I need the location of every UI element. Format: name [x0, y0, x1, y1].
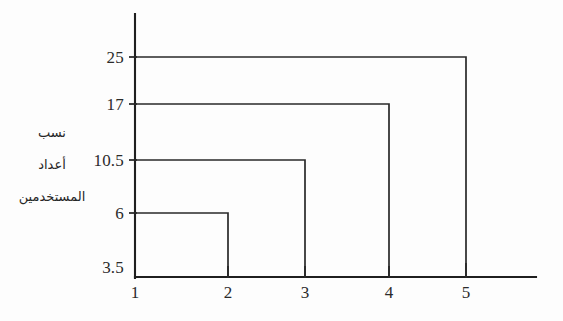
x-tick-label-5: 5	[451, 284, 481, 301]
y-tick-label-3-5: 3.5	[68, 259, 124, 276]
x-tick-label-1: 1	[120, 284, 150, 301]
y-tick-label-17: 17	[74, 96, 124, 113]
step-rect-6	[135, 213, 228, 277]
step-rect-25	[135, 57, 466, 277]
step-rect-10-5	[135, 160, 305, 277]
x-axis-ticks	[135, 263, 466, 277]
y-axis-title-line-1: نسب	[14, 126, 90, 139]
x-tick-label-2: 2	[213, 284, 243, 301]
y-axis-title-line-3: المستخدمين	[14, 190, 90, 203]
step-series	[135, 57, 466, 277]
x-tick-label-4: 4	[374, 284, 404, 301]
y-tick-label-6: 6	[74, 205, 124, 222]
step-rect-17	[135, 104, 389, 277]
y-axis-title-line-2: أعداد	[14, 158, 90, 171]
chart-container: 25 17 10.5 6 3.5 1 2 3 4 5 نسب أعداد الم…	[0, 0, 563, 321]
y-tick-label-25: 25	[74, 49, 124, 66]
x-tick-label-3: 3	[290, 284, 320, 301]
